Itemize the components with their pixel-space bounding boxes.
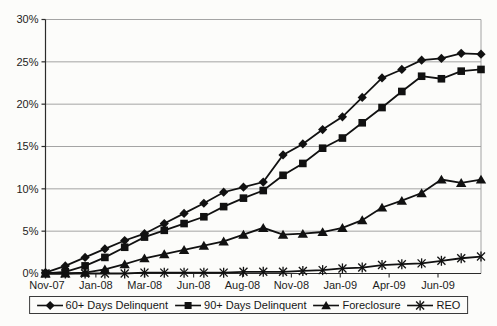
legend-item-foreclosure: Foreclosure — [313, 299, 400, 311]
y-tick-label: 30% — [16, 13, 38, 25]
x-tick-label: Aug-08 — [225, 279, 260, 291]
star-marker-icon — [408, 300, 434, 311]
gridlines — [46, 20, 482, 274]
triangle-marker-icon — [313, 300, 339, 311]
y-axis-labels: 0%5%10%15%20%25%30% — [16, 13, 45, 279]
legend-label: 60+ Days Delinquent — [66, 299, 168, 311]
square-marker-icon — [175, 300, 201, 311]
delinquency-chart-image: 0%5%10%15%20%25%30%Nov-07Jan-08Mar-08Jun… — [0, 0, 497, 326]
legend-label: 90+ Days Delinquent — [204, 299, 306, 311]
x-tick-label: Jan-08 — [79, 279, 113, 291]
series-60-days-delinquent — [41, 49, 486, 277]
diamond-marker-icon — [37, 300, 63, 311]
x-tick-label: Jun-09 — [421, 279, 455, 291]
y-tick-label: 5% — [23, 225, 39, 237]
legend-label: Foreclosure — [342, 299, 400, 311]
legend-item-60-days-delinquent: 60+ Days Delinquent — [37, 299, 168, 311]
x-axis-labels: Nov-07Jan-08Mar-08Jun-08Aug-08Nov-08Jan-… — [29, 274, 455, 292]
x-tick-label: Nov-07 — [29, 279, 64, 291]
x-tick-label: Jan-09 — [323, 279, 357, 291]
y-tick-label: 20% — [16, 98, 38, 110]
legend: 60+ Days Delinquent 90+ Days Delinquent … — [29, 296, 469, 314]
y-tick-label: 25% — [16, 56, 38, 68]
y-tick-label: 10% — [16, 183, 38, 195]
y-tick-label: 0% — [23, 267, 39, 279]
x-tick-label: Apr-09 — [373, 279, 406, 291]
y-tick-label: 15% — [16, 140, 38, 152]
legend-item-reo: REO — [408, 299, 461, 311]
legend-label: REO — [437, 299, 461, 311]
line-chart-canvas: 0%5%10%15%20%25%30%Nov-07Jan-08Mar-08Jun… — [0, 0, 497, 326]
series-90-days-delinquent — [42, 66, 485, 278]
legend-item-90-days-delinquent: 90+ Days Delinquent — [175, 299, 306, 311]
x-tick-label: Nov-08 — [274, 279, 309, 291]
x-tick-label: Jun-08 — [177, 279, 211, 291]
x-tick-label: Mar-08 — [127, 279, 162, 291]
